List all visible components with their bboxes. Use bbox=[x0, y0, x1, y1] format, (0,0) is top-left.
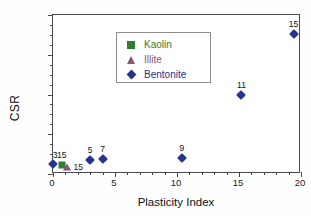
data-point-bentonite bbox=[48, 160, 58, 170]
triangle-marker-icon bbox=[125, 56, 137, 64]
x-axis-title: Plasticity Index bbox=[138, 196, 215, 208]
y-tick-major bbox=[48, 95, 53, 96]
x-tick-minor bbox=[276, 172, 277, 175]
x-tick-label: 5 bbox=[99, 178, 129, 188]
y-tick-minor bbox=[50, 45, 53, 46]
y-tick-minor bbox=[50, 25, 53, 26]
y-tick-minor bbox=[50, 65, 53, 66]
y-axis-title: CSR bbox=[8, 95, 22, 122]
y-tick-minor bbox=[50, 144, 53, 145]
legend-item-bentonite[interactable]: Bentonite bbox=[125, 67, 210, 82]
data-point-label: 11 bbox=[237, 81, 246, 90]
x-tick-minor bbox=[103, 172, 104, 175]
legend-item-kaolin[interactable]: Kaolin bbox=[125, 37, 210, 52]
y-tick-minor bbox=[50, 35, 53, 36]
x-tick-minor bbox=[152, 172, 153, 175]
legend-item-illite[interactable]: Illite bbox=[125, 52, 210, 67]
square-marker-icon bbox=[125, 41, 137, 49]
x-tick-label: 20 bbox=[285, 178, 311, 188]
data-point-label: 15 bbox=[74, 163, 83, 172]
y-tick-minor bbox=[50, 124, 53, 125]
x-tick-major bbox=[115, 172, 116, 177]
y-tick-minor bbox=[50, 75, 53, 76]
data-point-bentonite bbox=[177, 153, 187, 163]
y-tick-major bbox=[48, 134, 53, 135]
y-tick-minor bbox=[50, 114, 53, 115]
x-tick-minor bbox=[202, 172, 203, 175]
data-point-label: 5 bbox=[88, 146, 93, 155]
y-tick-minor bbox=[50, 104, 53, 105]
data-point-bentonite bbox=[289, 29, 299, 39]
x-tick-minor bbox=[251, 172, 252, 175]
data-point-bentonite bbox=[85, 155, 95, 165]
y-tick-minor bbox=[50, 85, 53, 86]
data-point-label: 15 bbox=[57, 151, 66, 160]
x-tick-minor bbox=[289, 172, 290, 175]
x-tick-major bbox=[301, 172, 302, 177]
chart-legend: KaolinIlliteBentonite bbox=[116, 32, 211, 83]
x-tick-major bbox=[239, 172, 240, 177]
x-tick-minor bbox=[140, 172, 141, 175]
data-point-label: 3 bbox=[53, 151, 58, 160]
data-point-bentonite bbox=[98, 154, 108, 164]
x-tick-minor bbox=[214, 172, 215, 175]
x-tick-minor bbox=[65, 172, 66, 175]
y-tick-major bbox=[48, 15, 53, 16]
x-tick-major bbox=[53, 172, 54, 177]
x-tick-label: 15 bbox=[223, 178, 253, 188]
data-point-illite bbox=[63, 163, 71, 170]
x-tick-minor bbox=[90, 172, 91, 175]
x-tick-minor bbox=[189, 172, 190, 175]
x-tick-minor bbox=[78, 172, 79, 175]
x-tick-minor bbox=[165, 172, 166, 175]
legend-item-label: Kaolin bbox=[144, 40, 172, 50]
plot-area: 151535791115 KaolinIlliteBentonite bbox=[52, 14, 300, 173]
x-tick-minor bbox=[264, 172, 265, 175]
diamond-marker-icon bbox=[125, 71, 137, 78]
data-point-label: 15 bbox=[289, 20, 298, 29]
x-tick-minor bbox=[227, 172, 228, 175]
x-tick-label: 0 bbox=[37, 178, 67, 188]
data-point-label: 9 bbox=[180, 144, 185, 153]
x-tick-minor bbox=[127, 172, 128, 175]
data-point-label: 7 bbox=[100, 145, 105, 154]
y-tick-major bbox=[48, 55, 53, 56]
scatter-chart-figure: CSR Plasticity Index 0.000.050.100.150.2… bbox=[0, 0, 311, 216]
x-tick-label: 10 bbox=[161, 178, 191, 188]
x-tick-major bbox=[177, 172, 178, 177]
legend-item-label: Bentonite bbox=[144, 70, 186, 80]
legend-item-label: Illite bbox=[144, 55, 162, 65]
data-point-bentonite bbox=[237, 90, 247, 100]
